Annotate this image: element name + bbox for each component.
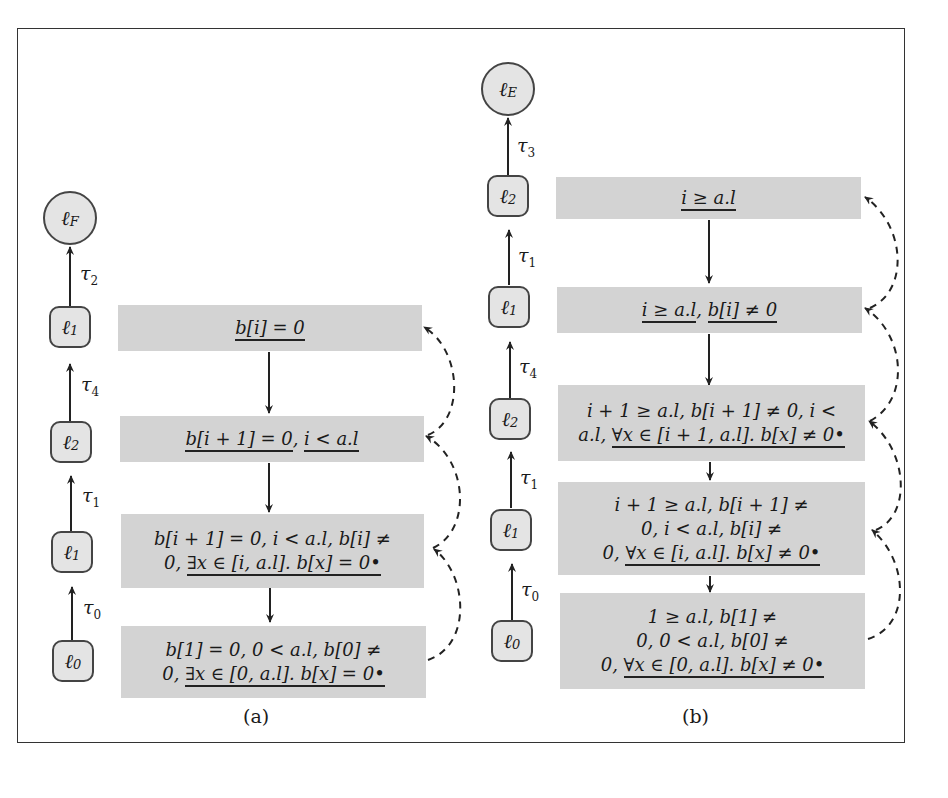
state-box: b[1] = 0, 0 < a.l, b[0] ≠0, ∃x ∈ [0, a.l… <box>121 626 426 698</box>
transition-label: τ4 <box>81 373 99 399</box>
state-box: b[i + 1] = 0, i < a.l, b[i] ≠0, ∃x ∈ [i,… <box>121 514 424 588</box>
state-box: i ≥ a.l, b[i] ≠ 0 <box>557 287 862 333</box>
location-node-l2: ℓ2 <box>489 398 531 440</box>
location-node-l1: ℓ1 <box>490 509 532 551</box>
location-node-l0: ℓ0 <box>491 620 533 662</box>
transition-label: τ0 <box>83 596 101 622</box>
state-box: i + 1 ≥ a.l, b[i + 1] ≠ 0, i <a.l, ∀x ∈ … <box>558 385 865 461</box>
transition-label: τ1 <box>520 466 538 492</box>
transition-label: τ1 <box>82 484 100 510</box>
transition-label: τ4 <box>519 355 537 381</box>
state-box: i ≥ a.l <box>556 177 861 219</box>
location-node-l1: ℓ1 <box>488 286 530 328</box>
transition-label: τ0 <box>521 578 539 604</box>
transition-label: τ1 <box>518 244 536 270</box>
location-node-l1: ℓ1 <box>51 531 93 573</box>
transition-label: τ2 <box>80 262 98 288</box>
location-node-lE: ℓE <box>481 62 535 116</box>
state-box: b[i] = 0 <box>118 305 422 351</box>
location-node-l2: ℓ2 <box>487 175 529 217</box>
state-box: 1 ≥ a.l, b[1] ≠0, 0 < a.l, b[0] ≠0, ∀x ∈… <box>560 593 865 689</box>
location-node-l2: ℓ2 <box>50 421 92 463</box>
transition-label: τ3 <box>517 134 535 160</box>
location-node-l0: ℓ0 <box>52 640 94 682</box>
location-node-l1: ℓ1 <box>49 306 91 348</box>
state-box: i + 1 ≥ a.l, b[i + 1] ≠0, i < a.l, b[i] … <box>558 482 865 575</box>
location-node-lF: ℓF <box>43 191 97 245</box>
caption-b: (b) <box>682 705 709 727</box>
caption-a: (a) <box>243 705 269 727</box>
state-box: b[i + 1] = 0, i < a.l <box>120 416 424 462</box>
